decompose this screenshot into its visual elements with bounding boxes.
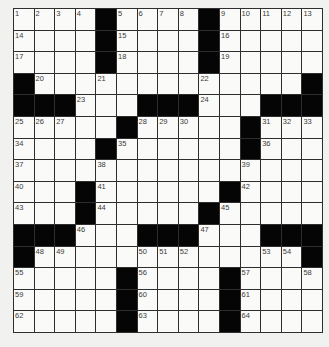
crossword-cell[interactable] <box>220 117 240 138</box>
crossword-cell[interactable] <box>96 225 116 246</box>
crossword-cell[interactable] <box>55 74 75 95</box>
crossword-cell[interactable]: 15 <box>117 31 137 52</box>
crossword-cell[interactable] <box>55 52 75 73</box>
crossword-cell[interactable]: 49 <box>55 247 75 268</box>
crossword-cell[interactable] <box>55 290 75 311</box>
crossword-cell[interactable] <box>302 139 322 160</box>
crossword-cell[interactable]: 1 <box>14 9 34 30</box>
crossword-cell[interactable] <box>282 139 302 160</box>
crossword-cell[interactable]: 62 <box>14 311 34 332</box>
crossword-cell[interactable]: 3 <box>55 9 75 30</box>
crossword-cell[interactable]: 28 <box>138 117 158 138</box>
crossword-cell[interactable] <box>261 311 281 332</box>
crossword-cell[interactable] <box>158 182 178 203</box>
crossword-cell[interactable]: 55 <box>14 268 34 289</box>
crossword-cell[interactable]: 6 <box>138 9 158 30</box>
crossword-cell[interactable] <box>282 290 302 311</box>
crossword-cell[interactable] <box>241 52 261 73</box>
crossword-cell[interactable] <box>179 31 199 52</box>
crossword-cell[interactable] <box>220 74 240 95</box>
crossword-cell[interactable] <box>179 311 199 332</box>
crossword-cell[interactable]: 2 <box>35 9 55 30</box>
crossword-cell[interactable]: 48 <box>35 247 55 268</box>
crossword-cell[interactable] <box>158 139 178 160</box>
crossword-cell[interactable] <box>179 203 199 224</box>
crossword-cell[interactable]: 50 <box>138 247 158 268</box>
crossword-cell[interactable] <box>35 268 55 289</box>
crossword-cell[interactable] <box>261 203 281 224</box>
crossword-cell[interactable] <box>241 95 261 116</box>
crossword-cell[interactable] <box>35 160 55 181</box>
crossword-cell[interactable] <box>179 74 199 95</box>
crossword-cell[interactable] <box>158 31 178 52</box>
crossword-cell[interactable] <box>302 203 322 224</box>
crossword-cell[interactable] <box>138 203 158 224</box>
crossword-cell[interactable] <box>261 74 281 95</box>
crossword-cell[interactable]: 42 <box>241 182 261 203</box>
crossword-cell[interactable] <box>35 203 55 224</box>
crossword-cell[interactable] <box>302 182 322 203</box>
crossword-cell[interactable] <box>158 311 178 332</box>
crossword-cell[interactable] <box>35 311 55 332</box>
crossword-cell[interactable] <box>96 311 116 332</box>
crossword-cell[interactable] <box>55 268 75 289</box>
crossword-cell[interactable] <box>302 311 322 332</box>
crossword-cell[interactable] <box>199 290 219 311</box>
crossword-cell[interactable] <box>55 160 75 181</box>
crossword-cell[interactable]: 64 <box>241 311 261 332</box>
crossword-cell[interactable] <box>179 268 199 289</box>
crossword-cell[interactable]: 34 <box>14 139 34 160</box>
crossword-cell[interactable] <box>158 74 178 95</box>
crossword-cell[interactable] <box>241 247 261 268</box>
crossword-cell[interactable] <box>117 247 137 268</box>
crossword-cell[interactable]: 36 <box>261 139 281 160</box>
crossword-cell[interactable] <box>117 160 137 181</box>
crossword-cell[interactable] <box>76 117 96 138</box>
crossword-cell[interactable]: 45 <box>220 203 240 224</box>
crossword-cell[interactable]: 18 <box>117 52 137 73</box>
crossword-cell[interactable]: 63 <box>138 311 158 332</box>
crossword-cell[interactable]: 40 <box>14 182 34 203</box>
crossword-cell[interactable] <box>282 203 302 224</box>
crossword-cell[interactable] <box>55 203 75 224</box>
crossword-cell[interactable]: 22 <box>199 74 219 95</box>
crossword-cell[interactable] <box>76 247 96 268</box>
crossword-cell[interactable]: 37 <box>14 160 34 181</box>
crossword-cell[interactable] <box>199 182 219 203</box>
crossword-cell[interactable]: 46 <box>76 225 96 246</box>
crossword-cell[interactable] <box>76 31 96 52</box>
crossword-cell[interactable] <box>76 290 96 311</box>
crossword-cell[interactable] <box>241 203 261 224</box>
crossword-cell[interactable] <box>158 160 178 181</box>
crossword-cell[interactable] <box>199 268 219 289</box>
crossword-cell[interactable]: 54 <box>282 247 302 268</box>
crossword-cell[interactable] <box>220 95 240 116</box>
crossword-cell[interactable] <box>35 52 55 73</box>
crossword-cell[interactable]: 24 <box>199 95 219 116</box>
crossword-cell[interactable] <box>261 31 281 52</box>
crossword-cell[interactable] <box>96 95 116 116</box>
crossword-cell[interactable] <box>282 268 302 289</box>
crossword-cell[interactable]: 52 <box>179 247 199 268</box>
crossword-cell[interactable]: 58 <box>302 268 322 289</box>
crossword-cell[interactable] <box>117 95 137 116</box>
crossword-cell[interactable] <box>138 139 158 160</box>
crossword-cell[interactable]: 33 <box>302 117 322 138</box>
crossword-cell[interactable]: 12 <box>282 9 302 30</box>
crossword-cell[interactable]: 60 <box>138 290 158 311</box>
crossword-cell[interactable] <box>282 311 302 332</box>
crossword-cell[interactable] <box>282 52 302 73</box>
crossword-cell[interactable] <box>302 52 322 73</box>
crossword-cell[interactable]: 61 <box>241 290 261 311</box>
crossword-cell[interactable]: 39 <box>241 160 261 181</box>
crossword-cell[interactable] <box>117 74 137 95</box>
crossword-cell[interactable]: 20 <box>35 74 55 95</box>
crossword-cell[interactable]: 5 <box>117 9 137 30</box>
crossword-cell[interactable] <box>55 139 75 160</box>
crossword-cell[interactable] <box>35 31 55 52</box>
crossword-cell[interactable]: 19 <box>220 52 240 73</box>
crossword-cell[interactable] <box>55 311 75 332</box>
crossword-cell[interactable] <box>35 139 55 160</box>
crossword-cell[interactable] <box>261 160 281 181</box>
crossword-cell[interactable]: 53 <box>261 247 281 268</box>
